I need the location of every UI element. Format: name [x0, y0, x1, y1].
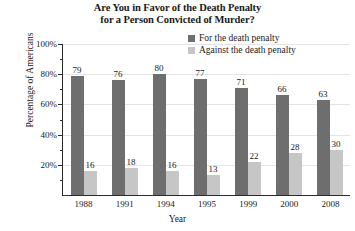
bar-slot: 79 [71, 44, 84, 195]
bar-slot: 16 [166, 44, 179, 195]
bar-group: 6330 [317, 44, 343, 195]
bar-for: 71 [235, 88, 248, 195]
bar-slot: 18 [125, 44, 138, 195]
bar-value-label: 71 [237, 77, 246, 87]
x-axis-labels: 1988199119941995199920002008 [63, 199, 351, 209]
chart-title-line-2: for a Person Convicted of Murder? [0, 14, 355, 26]
y-tick-major [58, 165, 62, 166]
bar-slot: 77 [194, 44, 207, 195]
bar-value-label: 30 [332, 139, 341, 149]
bar-value-label: 16 [86, 160, 95, 170]
bar-slot: 71 [235, 44, 248, 195]
bar-value-label: 28 [291, 142, 300, 152]
bar-value-label: 16 [168, 160, 177, 170]
y-tick-minor [60, 180, 63, 181]
y-tick-label: 80% [41, 69, 58, 79]
chart-title: Are You in Favor of the Death Penalty fo… [0, 2, 355, 26]
bar-slot: 66 [276, 44, 289, 195]
bar-slot: 28 [289, 44, 302, 195]
y-tick-minor [60, 120, 63, 121]
bar-group: 7122 [235, 44, 261, 195]
y-tick-major [58, 74, 62, 75]
x-tick-label: 1999 [235, 199, 261, 209]
y-tick-minor [60, 89, 63, 90]
bar-group: 6628 [276, 44, 302, 195]
y-tick-label: 100% [36, 39, 57, 49]
bar-slot: 22 [248, 44, 261, 195]
bar-against: 30 [330, 150, 343, 195]
bar-for: 63 [317, 100, 330, 195]
bar-against: 28 [289, 153, 302, 195]
bar-value-label: 79 [73, 65, 82, 75]
bar-slot: 13 [207, 44, 220, 195]
x-tick-label: 2000 [276, 199, 302, 209]
bar-value-label: 63 [319, 89, 328, 99]
bar-slot: 76 [112, 44, 125, 195]
x-tick-label: 1995 [194, 199, 220, 209]
bar-against: 22 [248, 162, 261, 195]
bar-value-label: 76 [114, 69, 123, 79]
y-tick-label: 60% [41, 99, 58, 109]
bar-against: 13 [207, 175, 220, 195]
bar-slot: 80 [153, 44, 166, 195]
bar-against: 16 [84, 171, 97, 195]
bar-value-label: 13 [209, 164, 218, 174]
bar-against: 16 [166, 171, 179, 195]
chart-title-line-1: Are You in Favor of the Death Penalty [0, 2, 355, 14]
bar-value-label: 22 [250, 151, 259, 161]
bar-group: 7618 [112, 44, 138, 195]
legend-swatch-for-icon [188, 35, 195, 42]
bar-slot: 63 [317, 44, 330, 195]
bar-for: 77 [194, 79, 207, 195]
legend-label-for: For the death penalty [199, 33, 279, 45]
bar-slot: 30 [330, 44, 343, 195]
legend-item-for: For the death penalty [188, 33, 296, 45]
bar-for: 76 [112, 80, 125, 195]
plot-area: 20%40%60%80%100% 79167618801677137122662… [62, 44, 350, 196]
bar-for: 80 [153, 74, 166, 195]
y-axis-title: Percentage of Americans [25, 5, 35, 155]
bar-group: 7713 [194, 44, 220, 195]
bar-value-label: 77 [196, 68, 205, 78]
bar-for: 79 [71, 76, 84, 195]
bar-group: 8016 [153, 44, 179, 195]
bar-group: 7916 [71, 44, 97, 195]
y-tick-label: 20% [41, 160, 58, 170]
x-axis-line [62, 195, 350, 196]
bar-groups: 7916761880167713712266286330 [63, 44, 350, 195]
bar-chart: Are You in Favor of the Death Penalty fo… [0, 0, 355, 231]
x-tick-label: 1991 [112, 199, 138, 209]
x-tick-label: 1994 [153, 199, 179, 209]
bar-value-label: 66 [278, 84, 287, 94]
y-tick-minor [60, 150, 63, 151]
x-tick-label: 1988 [71, 199, 97, 209]
y-tick-major [58, 44, 62, 45]
y-tick-major [58, 135, 62, 136]
bar-value-label: 80 [155, 63, 164, 73]
bar-against: 18 [125, 168, 138, 195]
x-tick-label: 2008 [317, 199, 343, 209]
y-tick-major [58, 104, 62, 105]
x-axis-title: Year [0, 214, 355, 224]
y-tick-label: 40% [41, 130, 58, 140]
bar-slot: 16 [84, 44, 97, 195]
bar-value-label: 18 [127, 157, 136, 167]
bar-for: 66 [276, 95, 289, 195]
y-tick-minor [60, 59, 63, 60]
